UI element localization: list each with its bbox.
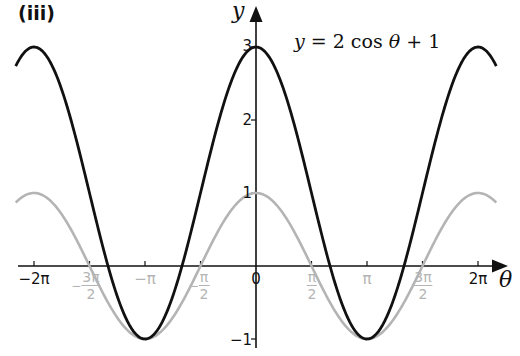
x-axis-name: θ <box>499 267 512 292</box>
equation-lhs: y <box>294 30 305 52</box>
y-axis-arrow-icon <box>250 6 263 22</box>
fraction-sign: − <box>189 279 199 293</box>
y-axis-name: y <box>232 0 244 23</box>
x-tick-label-neg-2pi: −2π <box>18 270 49 288</box>
y-tick-label-neg-1: −1 <box>230 331 252 349</box>
x-tick-label-neg-pi: −π <box>134 270 156 288</box>
fraction-numerator: π <box>199 270 209 286</box>
y-tick-label-3: 3 <box>242 37 252 55</box>
fraction-numerator: π <box>307 270 317 286</box>
equation-var: θ <box>389 30 400 52</box>
x-tick-label-pi-over-2: π2 <box>307 270 317 301</box>
equation-label: y = 2 cos θ + 1 <box>294 30 440 52</box>
fraction-sign: − <box>71 279 81 293</box>
equation-tail: + 1 <box>400 30 440 52</box>
x-tick-label-3pi-over-2: 3π2 <box>413 270 432 301</box>
equation-equals: = <box>305 30 333 52</box>
graph-canvas <box>0 0 520 356</box>
x-tick-label-zero: 0 <box>251 270 261 288</box>
fraction-numerator: 3π <box>81 270 100 286</box>
x-tick-label-pi: π <box>362 270 371 288</box>
fraction-denominator: 2 <box>308 286 317 301</box>
equation-coef: 2 cos <box>333 30 389 52</box>
part-label: (iii) <box>18 2 55 24</box>
x-tick-label-neg-3pi-over-2: −3π2 <box>71 270 100 301</box>
fraction-denominator: 2 <box>200 286 209 301</box>
y-tick-label-2: 2 <box>242 111 252 129</box>
fraction-denominator: 2 <box>419 286 428 301</box>
fraction-numerator: 3π <box>413 270 432 286</box>
y-tick-label-1: 1 <box>242 184 252 202</box>
fraction-denominator: 2 <box>87 286 96 301</box>
x-tick-label-2pi: 2π <box>469 270 488 288</box>
x-tick-label-neg-pi-over-2: −π2 <box>189 270 210 301</box>
